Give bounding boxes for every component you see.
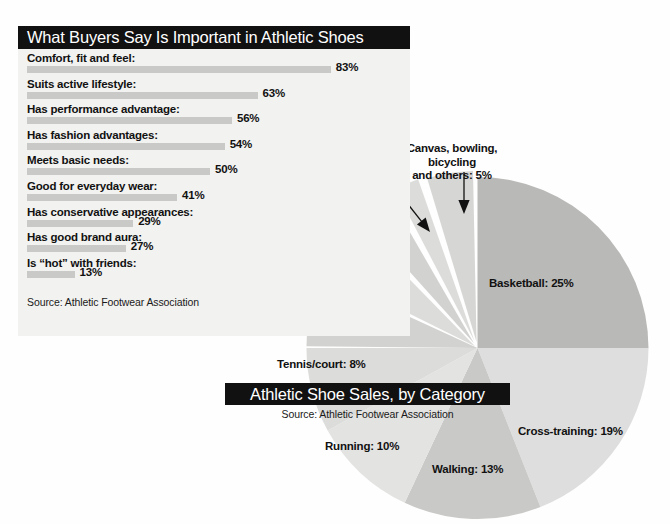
bar-fill xyxy=(27,168,210,175)
bar-row-label: Has conservative appearances: xyxy=(27,206,193,218)
pie-slice-label: Tennis/court: 8% xyxy=(277,358,366,370)
bar-row-label: Has fashion advantages: xyxy=(27,129,158,141)
bar-chart-panel: What Buyers Say Is Important in Athletic… xyxy=(18,26,410,336)
bar-value-label: 83% xyxy=(336,61,358,73)
bar-row: Comfort, fit and feel:83% xyxy=(18,52,410,78)
bar-row: Suits active lifestyle:63% xyxy=(18,78,410,104)
pie-slice-label: Walking: 13% xyxy=(432,463,503,475)
bar-fill xyxy=(27,271,75,278)
pie-label-canvas-line2: bicycling xyxy=(428,156,476,168)
bar-value-label: 54% xyxy=(230,138,252,150)
pie-chart-source: Source: Athletic Footwear Association xyxy=(225,408,510,420)
bar-row-label: Meets basic needs: xyxy=(27,154,129,166)
bar-row: Meets basic needs:50% xyxy=(18,154,410,180)
pie-chart-title: Athletic Shoe Sales, by Category xyxy=(225,383,510,405)
bar-track xyxy=(27,168,210,175)
bar-value-label: 29% xyxy=(138,215,160,227)
bar-value-label: 63% xyxy=(263,87,285,99)
pie-label-canvas-line1: Canvas, bowling, xyxy=(407,142,498,154)
bar-track xyxy=(27,194,177,201)
bar-row: Has fashion advantages:54% xyxy=(18,129,410,155)
bar-row: Good for everyday wear:41% xyxy=(18,180,410,206)
bar-value-label: 50% xyxy=(215,163,237,175)
bar-row-label: Suits active lifestyle: xyxy=(27,78,136,90)
bar-row: Has conservative appearances:29% xyxy=(18,206,410,232)
bar-track xyxy=(27,66,331,73)
bar-chart-rows: Comfort, fit and feel:83%Suits active li… xyxy=(18,52,410,282)
bar-value-label: 27% xyxy=(131,240,153,252)
infographic-canvas: Basketball: 25%Cross-training: 19%Walkin… xyxy=(0,0,670,524)
bar-track xyxy=(27,143,225,150)
bar-fill xyxy=(27,92,258,99)
bar-row: Has good brand aura:27% xyxy=(18,231,410,257)
bar-value-label: 41% xyxy=(182,189,204,201)
bar-chart-source: Source: Athletic Footwear Association xyxy=(27,296,199,308)
bar-row-label: Has good brand aura: xyxy=(27,231,142,243)
bar-track xyxy=(27,271,75,278)
bar-row: Is “hot” with friends:13% xyxy=(18,257,410,283)
pie-slice-label: Cross-training: 19% xyxy=(518,425,623,437)
pie-slice-label: Running: 10% xyxy=(325,440,399,452)
bar-fill xyxy=(27,117,232,124)
bar-track xyxy=(27,92,258,99)
bar-fill xyxy=(27,66,331,73)
bar-chart-title: What Buyers Say Is Important in Athletic… xyxy=(18,26,410,49)
bar-fill xyxy=(27,245,126,252)
bar-track xyxy=(27,220,133,227)
bar-row-label: Comfort, fit and feel: xyxy=(27,52,135,64)
bar-fill xyxy=(27,220,133,227)
bar-fill xyxy=(27,194,177,201)
pie-slice xyxy=(478,177,649,348)
bar-row-label: Good for everyday wear: xyxy=(27,180,157,192)
bar-row-label: Has performance advantage: xyxy=(27,103,180,115)
bar-value-label: 13% xyxy=(80,266,102,278)
pie-slice-label: Basketball: 25% xyxy=(489,277,574,289)
pie-label-canvas-line3: and others: 5% xyxy=(412,169,492,181)
bar-track xyxy=(27,117,232,124)
bar-fill xyxy=(27,143,225,150)
bar-row: Has performance advantage:56% xyxy=(18,103,410,129)
bar-value-label: 56% xyxy=(237,112,259,124)
bar-track xyxy=(27,245,126,252)
